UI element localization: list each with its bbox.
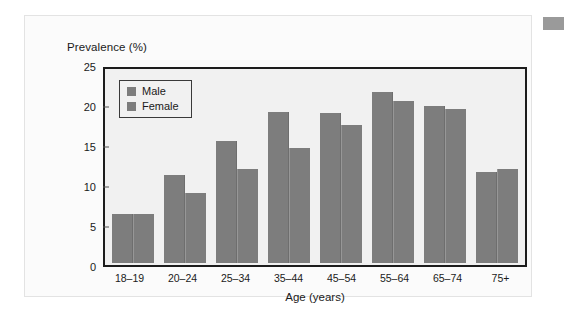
- x-axis-title: Age (years): [103, 291, 527, 303]
- bar-female: [497, 169, 518, 263]
- bar-male: [320, 113, 341, 263]
- bar-male: [372, 92, 393, 263]
- legend-item-female: Female: [127, 101, 179, 112]
- y-tick-mark: [103, 147, 109, 148]
- bar-female: [133, 214, 154, 263]
- bar-female: [445, 109, 466, 263]
- bar-male: [164, 175, 185, 263]
- y-tick-label: 5: [90, 221, 96, 233]
- bar-female: [341, 125, 362, 263]
- bar-female: [289, 148, 310, 263]
- x-tick-label: 45–54: [315, 272, 368, 284]
- y-tick-label: 20: [84, 101, 96, 113]
- legend-label-female: Female: [142, 101, 179, 112]
- y-tick-label: 10: [84, 181, 96, 193]
- bar-male: [268, 112, 289, 263]
- bar-group: [315, 71, 367, 263]
- bar-group: [419, 71, 471, 263]
- y-axis-title: Prevalence (%): [67, 41, 147, 53]
- figure-panel: Prevalence (%) Male Female 0510152025 18…: [24, 15, 532, 297]
- legend-swatch-male-icon: [127, 87, 136, 96]
- legend-item-male: Male: [127, 86, 179, 97]
- x-tick-label: 55–64: [368, 272, 421, 284]
- y-tick-mark: [103, 227, 109, 228]
- x-axis-tick-labels: 18–1920–2425–3435–4445–5455–6465–7475+: [103, 272, 527, 284]
- bar-female: [393, 101, 414, 263]
- y-tick-label: 0: [90, 261, 96, 273]
- y-tick-label: 15: [84, 141, 96, 153]
- bar-male: [424, 106, 445, 263]
- x-tick-label: 20–24: [156, 272, 209, 284]
- bar-male: [216, 141, 237, 263]
- bar-group: [211, 71, 263, 263]
- bar-group: [263, 71, 315, 263]
- y-tick-mark: [103, 187, 109, 188]
- x-tick-label: 65–74: [421, 272, 474, 284]
- chart-legend: Male Female: [119, 80, 192, 118]
- x-tick-label: 18–19: [103, 272, 156, 284]
- x-tick-label: 25–34: [209, 272, 262, 284]
- bar-group: [367, 71, 419, 263]
- corner-gray-marker: [543, 17, 564, 30]
- legend-swatch-female-icon: [127, 102, 136, 111]
- y-tick-label: 25: [84, 61, 96, 73]
- legend-label-male: Male: [142, 86, 166, 97]
- y-tick-mark: [103, 107, 109, 108]
- bar-female: [185, 193, 206, 263]
- bar-group: [471, 71, 523, 263]
- x-tick-label: 35–44: [262, 272, 315, 284]
- plot-wrapper: Male Female 0510152025: [103, 67, 527, 267]
- plot-area: Male Female: [103, 67, 527, 267]
- bar-male: [476, 172, 497, 263]
- bar-male: [112, 214, 133, 263]
- bar-female: [237, 169, 258, 263]
- x-tick-label: 75+: [474, 272, 527, 284]
